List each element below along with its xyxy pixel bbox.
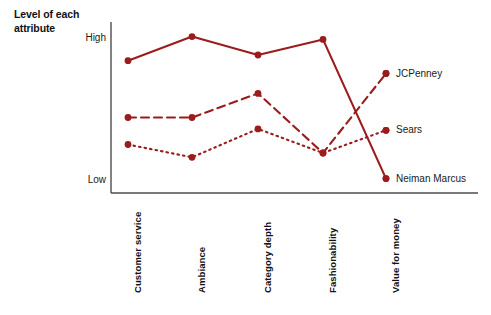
data-point-marker — [320, 150, 327, 157]
legend-connector-lines — [383, 70, 390, 182]
legend-label-sears: Sears — [396, 124, 422, 135]
plot-area — [0, 0, 491, 315]
axis-lines — [111, 22, 478, 193]
data-point-marker — [189, 154, 196, 161]
data-point-marker — [320, 36, 327, 43]
series-endpoint-marker — [383, 70, 390, 77]
series-lines — [125, 33, 390, 182]
data-point-marker — [189, 33, 196, 40]
series-endpoint-marker — [383, 127, 390, 134]
series-endpoint-marker — [383, 175, 390, 182]
x-axis-category-label-0: Customer service — [132, 212, 143, 293]
x-axis-category-label-4: Value for money — [390, 218, 401, 293]
data-point-marker — [255, 125, 262, 132]
data-point-marker — [255, 90, 262, 97]
data-point-marker — [125, 114, 132, 121]
data-point-marker — [255, 52, 262, 59]
legend-label-neiman-marcus: Neiman Marcus — [396, 173, 466, 184]
series-line-sears — [128, 129, 386, 157]
x-axis-category-label-3: Fashionability — [327, 228, 338, 293]
data-point-marker — [189, 114, 196, 121]
x-axis-category-label-2: Category depth — [262, 222, 273, 293]
series-line-jcpenney — [128, 74, 386, 154]
x-axis-category-label-1: Ambiance — [196, 247, 207, 293]
attribute-level-line-chart: Level of each attribute High Low Custome… — [0, 0, 491, 315]
data-point-marker — [125, 141, 132, 148]
data-point-marker — [125, 57, 132, 64]
legend-label-jcpenney: JCPenney — [396, 68, 442, 79]
